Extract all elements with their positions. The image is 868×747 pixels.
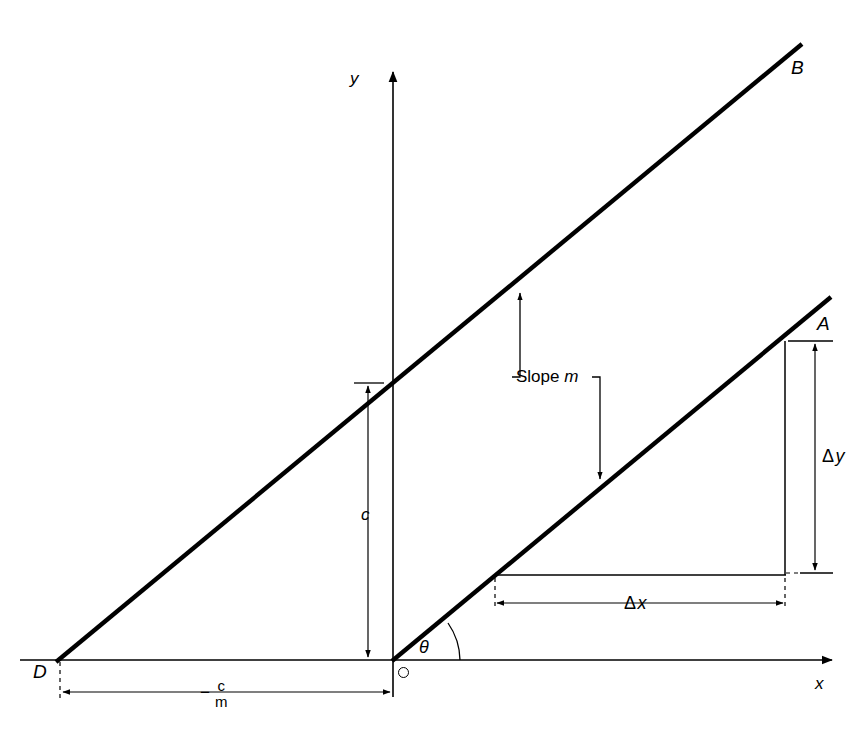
slope-leader-to-a (592, 377, 600, 479)
line-b-label: B (791, 58, 804, 77)
line-a-label: A (817, 314, 830, 333)
slope-leader-group (512, 293, 600, 479)
slope-annotation-variable: m (564, 367, 578, 386)
angle-theta-label: θ (419, 638, 429, 656)
intercept-c-label: c (361, 506, 370, 523)
delta-x-label: Δ x (624, 594, 647, 612)
x-intercept-minus-sign: − (200, 683, 210, 703)
x-axis-label: x (815, 675, 824, 692)
x-intercept-label-d: D (33, 662, 47, 681)
origin-marker-circle (398, 667, 409, 678)
x-intercept-denominator: m (213, 694, 230, 710)
line-a (392, 297, 831, 661)
delta-y-variable: y (836, 446, 845, 466)
delta-y-label: Δ y (822, 447, 845, 465)
figure-canvas: y x O B A D θ c Slope m Δ y Δ x − c m (0, 0, 868, 747)
x-intercept-numerator: c (215, 678, 227, 694)
slope-annotation-label: Slope m (516, 368, 578, 385)
line-graph-diagram (0, 0, 868, 747)
y-axis-label: y (350, 70, 359, 87)
x-intercept-fraction: c m (213, 678, 230, 710)
delta-x-greek: Δ (624, 593, 636, 613)
line-b (56, 44, 802, 662)
x-intercept-expression: − c m (200, 678, 229, 710)
delta-y-greek: Δ (822, 446, 834, 466)
angle-theta-arc (448, 623, 460, 660)
slope-annotation-prefix: Slope (516, 367, 559, 386)
slope-leader-to-b (512, 293, 520, 377)
delta-x-variable: x (638, 593, 647, 613)
